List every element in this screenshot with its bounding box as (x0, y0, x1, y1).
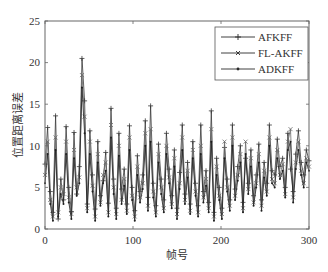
x-tick-label: 200 (213, 234, 230, 246)
legend-label: AFKFF (258, 31, 292, 43)
y-axis-label: 位置距离误差 (11, 92, 25, 158)
y-tick-label: 0 (35, 223, 41, 235)
y-tick-label: 15 (29, 98, 41, 110)
y-tick-label: 25 (29, 15, 41, 27)
x-tick-label: 0 (42, 234, 48, 246)
y-tick-label: 20 (29, 56, 41, 68)
line-chart: 0 5 10 15 20 25 0 100 200 300 帧号 位置距离误差 … (0, 0, 328, 272)
y-tick-label: 10 (29, 140, 41, 152)
legend: AFKFF FL-AKFF ADKFF (215, 27, 308, 80)
legend-label: FL-AKFF (258, 47, 303, 59)
x-tick-label: 300 (301, 234, 318, 246)
x-tick-label: 100 (125, 234, 142, 246)
x-axis-label: 帧号 (166, 248, 188, 262)
y-tick-label: 5 (35, 181, 41, 193)
legend-label: ADKFF (258, 63, 294, 75)
dot-marker-icon (237, 68, 240, 71)
